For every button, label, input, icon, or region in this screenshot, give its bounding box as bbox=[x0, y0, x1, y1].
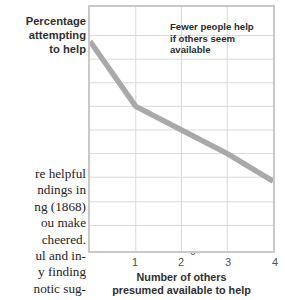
x-axis-label-line: Number of others bbox=[88, 271, 275, 284]
page-body-text: re helpful ndings in ng (1868) ou make c… bbox=[0, 166, 86, 297]
body-text-line: ul and in- bbox=[0, 248, 86, 264]
body-text-line: re helpful bbox=[0, 166, 86, 182]
x-tick-label-4: 4 bbox=[260, 256, 285, 268]
plot-area: Fewer people help if others seem availab… bbox=[88, 5, 275, 253]
body-text-line: y finding bbox=[0, 264, 86, 280]
chart-annotation-line: available bbox=[170, 44, 274, 56]
chart-annotation-line: if others seem bbox=[170, 33, 274, 45]
x-tick-label-3: 3 bbox=[213, 256, 243, 268]
body-text-line: ou make bbox=[0, 215, 86, 231]
chart-annotation: Fewer people help if others seem availab… bbox=[170, 21, 274, 56]
x-tick-label-2: 2 bbox=[166, 256, 196, 268]
y-axis-label: Percentage attempting to help bbox=[0, 14, 86, 57]
x-axis-label-line: presumed available to help bbox=[88, 284, 275, 297]
chart-annotation-line: Fewer people help bbox=[170, 21, 274, 33]
x-tick-label-1: 1 bbox=[120, 256, 150, 268]
body-text-line: ng (1868) bbox=[0, 199, 86, 215]
y-axis-label-line: to help bbox=[0, 42, 86, 56]
body-text-line: ndings in bbox=[0, 182, 86, 198]
body-text-line: cheered. bbox=[0, 232, 86, 248]
body-text-line: notic sug- bbox=[0, 281, 86, 297]
y-axis-label-line: attempting bbox=[0, 28, 86, 42]
line-chart: Fewer people help if others seem availab… bbox=[88, 5, 275, 253]
x-axis-label: Number of others presumed available to h… bbox=[88, 271, 275, 297]
y-axis-label-line: Percentage bbox=[0, 14, 86, 28]
